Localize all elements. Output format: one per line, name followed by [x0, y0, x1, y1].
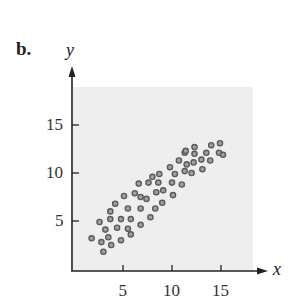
- data-point: [157, 171, 162, 176]
- x-axis-arrow-icon: [257, 268, 268, 275]
- data-point: [189, 170, 194, 175]
- x-tick-label: 5: [119, 281, 128, 301]
- data-point: [183, 148, 188, 153]
- data-point: [128, 217, 133, 222]
- data-point: [121, 193, 126, 198]
- data-point: [115, 225, 120, 230]
- data-point: [128, 232, 133, 237]
- data-point: [161, 188, 166, 193]
- data-point: [192, 151, 197, 156]
- data-point: [199, 157, 204, 162]
- data-point: [144, 196, 149, 201]
- y-tick-label: 15: [46, 115, 63, 135]
- scatter-plot: [0, 0, 290, 308]
- data-point: [89, 236, 94, 241]
- data-point: [99, 240, 104, 245]
- data-point: [106, 235, 111, 240]
- data-point: [176, 158, 181, 163]
- data-point: [138, 194, 143, 199]
- data-point: [208, 158, 213, 163]
- data-point: [108, 209, 113, 214]
- data-point: [192, 145, 197, 150]
- data-point: [125, 226, 130, 231]
- data-point: [153, 206, 158, 211]
- y-axis-arrow-icon: [69, 66, 76, 77]
- data-point: [160, 200, 165, 205]
- data-point: [109, 242, 114, 247]
- data-point: [146, 180, 151, 185]
- data-point: [170, 193, 175, 198]
- data-point: [138, 206, 143, 211]
- data-point: [200, 167, 205, 172]
- data-point: [136, 181, 141, 186]
- data-point: [172, 171, 177, 176]
- data-point: [217, 141, 222, 146]
- y-tick-label: 5: [55, 211, 64, 231]
- data-point: [191, 160, 196, 165]
- data-point: [154, 190, 159, 195]
- data-point: [108, 217, 113, 222]
- data-point: [156, 180, 161, 185]
- data-point: [138, 222, 143, 227]
- x-tick-label: 10: [163, 281, 180, 301]
- data-point: [113, 201, 118, 206]
- data-point: [150, 174, 155, 179]
- data-point: [118, 217, 123, 222]
- data-point: [169, 180, 174, 185]
- data-point: [148, 215, 153, 220]
- data-point: [182, 169, 187, 174]
- data-point: [204, 150, 209, 155]
- data-point: [132, 191, 137, 196]
- data-point: [209, 143, 214, 148]
- y-tick-label: 10: [46, 163, 63, 183]
- data-point: [179, 182, 184, 187]
- data-point: [125, 206, 130, 211]
- data-point: [220, 152, 225, 157]
- data-point: [103, 227, 108, 232]
- data-point: [167, 165, 172, 170]
- data-point: [184, 162, 189, 167]
- data-point: [97, 219, 102, 224]
- data-point: [118, 238, 123, 243]
- x-tick-label: 15: [212, 281, 229, 301]
- data-point: [101, 249, 106, 254]
